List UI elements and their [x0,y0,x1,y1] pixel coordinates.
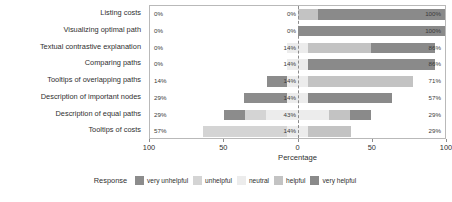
x-axis-tick [149,139,150,142]
legend-swatch-icon [193,176,202,185]
x-axis: 10050050100 [149,139,446,140]
category-label: Comparing paths [85,55,141,72]
bar-segment-very-unhelpful [224,110,245,120]
bar-segment-very-helpful [308,59,435,69]
negative-total-label: 57% [154,123,166,140]
x-axis-tick-label: 0 [295,143,299,152]
positive-total-label: 29% [429,123,441,140]
bar-segment-unhelpful [203,126,287,136]
legend-label: unhelpful [205,177,232,184]
negative-total-label: 29% [154,107,166,124]
legend-label: very unhelpful [147,177,188,184]
positive-total-label: 86% [429,40,441,57]
bar-segment-very-helpful [350,110,371,120]
positive-total-label: 100% [425,23,441,40]
category-label: Listing costs [100,5,141,22]
x-axis-tick-label: 100 [440,143,452,152]
bar-segment-very-helpful [308,93,392,103]
legend-item[interactable]: very helpful [310,176,356,185]
x-axis-tick [298,139,299,142]
legend-item[interactable]: helpful [274,176,305,185]
x-axis-tick-label: 50 [219,143,227,152]
legend-swatch-icon [237,176,246,185]
legend: Response very unhelpfulunhelpfulneutralh… [0,176,450,185]
negative-total-label: 0% [154,56,163,73]
neutral-label: 0% [287,6,297,23]
positive-total-label: 71% [429,73,441,90]
neutral-label: 14% [284,90,298,107]
category-label: Tooltips of costs [88,122,141,139]
neutral-label: 43% [284,107,298,124]
category-label: Textual contrastive explanation [40,39,141,56]
x-axis-tick [446,139,447,142]
neutral-label: 14% [284,73,298,90]
positive-total-label: 29% [429,107,441,124]
neutral-label: 14% [284,56,298,73]
x-axis-tick [223,139,224,142]
x-axis-tick-label: 100 [143,143,155,152]
category-axis-labels: Listing costsVisualizing optimal pathTex… [0,5,145,139]
bar-segment-unhelpful [245,110,266,120]
legend-item[interactable]: neutral [237,176,269,185]
legend-item[interactable]: unhelpful [193,176,232,185]
legend-label: helpful [286,177,305,184]
negative-total-label: 14% [154,73,166,90]
legend-label: neutral [249,177,269,184]
legend-label: very helpful [322,177,356,184]
bar-segment-helpful [308,76,413,86]
bar-segment-helpful [308,43,371,53]
bar-segment-very-helpful [371,43,434,53]
negative-total-label: 0% [154,6,163,23]
neutral-label: 0% [287,23,297,40]
negative-total-label: 29% [154,90,166,107]
legend-swatch-icon [310,176,319,185]
positive-total-label: 57% [429,90,441,107]
neutral-label: 14% [284,123,298,140]
legend-title: Response [94,176,127,185]
negative-total-label: 0% [154,40,163,57]
legend-swatch-icon [135,176,144,185]
legend-swatch-icon [274,176,283,185]
category-label: Description of equal paths [56,106,141,123]
negative-total-label: 0% [154,23,163,40]
bar-segment-helpful [308,126,351,136]
zero-reference-line [298,6,299,138]
x-axis-title: Percentage [149,153,446,162]
bar-segment-very-helpful [298,26,446,36]
category-label: Description of important nodes [41,89,141,106]
x-axis-tick [372,139,373,142]
plot-area: 0%100%0%0%100%0%0%86%14%0%86%14%14%71%14… [149,5,446,139]
category-label: Visualizing optimal path [63,22,141,39]
category-label: Tooltips of overlapping paths [47,72,141,89]
positive-total-label: 86% [429,56,441,73]
positive-total-label: 100% [425,6,441,23]
bar-segment-helpful [329,110,350,120]
bar-segment-helpful [298,9,319,19]
bar-segment-very-unhelpful [244,93,287,103]
legend-item[interactable]: very unhelpful [135,176,188,185]
x-axis-tick-label: 50 [368,143,376,152]
neutral-label: 14% [284,40,298,57]
